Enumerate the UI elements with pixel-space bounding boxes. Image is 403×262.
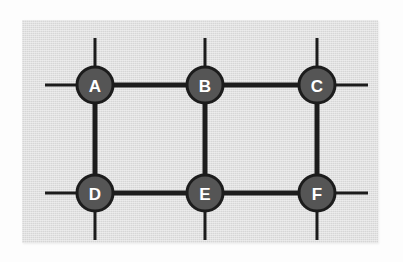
diagram-panel: [22, 20, 378, 243]
diagram-canvas: ABCDEF: [0, 0, 403, 262]
